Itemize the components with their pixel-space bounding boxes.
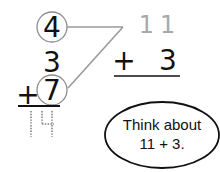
hint-line-1: Think about — [123, 116, 202, 133]
hint-bubble: Think about 11 + 3. — [105, 102, 219, 168]
circled-seven: 7 — [37, 74, 67, 107]
right-plus-sign: + — [112, 44, 135, 77]
addition-diagram: 4 3 + 7 11 + 3 Think about 11 + 3. — [0, 0, 220, 172]
right-second-addend: 3 — [159, 44, 177, 77]
hint-line-2: 11 + 3. — [139, 135, 184, 152]
traceable-answer-14 — [31, 111, 54, 137]
bottom-addend: 7 — [43, 74, 61, 107]
circled-four: 4 — [37, 11, 67, 44]
top-addend: 4 — [43, 11, 61, 44]
gray-eleven: 11 — [139, 11, 182, 39]
